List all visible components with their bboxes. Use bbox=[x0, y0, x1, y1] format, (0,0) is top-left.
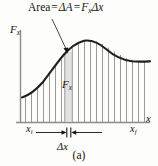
y-axis-label: Fx bbox=[10, 24, 20, 37]
x-axis-symbol: x bbox=[146, 112, 151, 124]
force-vs-position-figure: Area=ΔA=FxΔx Fx x xi xf Fx Δx (a) bbox=[0, 0, 158, 166]
annotation-leader-line bbox=[52, 19, 67, 50]
x-axis-label: x bbox=[146, 113, 151, 124]
equals-sign-1: = bbox=[50, 1, 59, 13]
x-initial-subscript: i bbox=[31, 128, 33, 135]
area-word: Area bbox=[28, 1, 50, 13]
x-initial-label: xi bbox=[26, 124, 33, 136]
delta-a-symbol: ΔA bbox=[59, 1, 73, 13]
strip-force-label: Fx bbox=[62, 79, 72, 92]
equals-sign-2: = bbox=[73, 1, 82, 13]
strip-force-symbol: F bbox=[62, 78, 69, 90]
delta-x-left-arrowhead bbox=[62, 130, 67, 135]
force-curve bbox=[22, 40, 150, 97]
delta-x-right-arrowhead bbox=[71, 130, 76, 135]
x-final-subscript: f bbox=[135, 128, 137, 135]
strip-force-subscript: x bbox=[69, 84, 72, 92]
y-axis-subscript: x bbox=[17, 29, 20, 37]
figure-graphics bbox=[0, 0, 158, 166]
x-final-label: xf bbox=[130, 124, 137, 136]
area-annotation-label: Area=ΔA=FxΔx bbox=[28, 2, 103, 15]
delta-x-symbol: Δx bbox=[92, 1, 104, 13]
y-axis-symbol: F bbox=[10, 23, 17, 35]
figure-caption: (a) bbox=[0, 150, 158, 162]
